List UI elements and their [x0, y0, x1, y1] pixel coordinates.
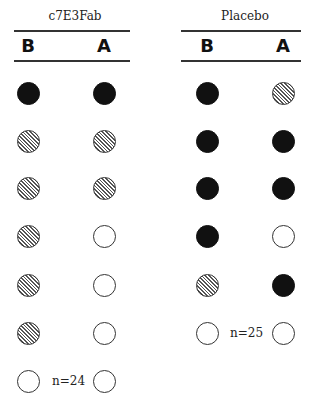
hatched-circle-icon — [17, 225, 40, 248]
hatched-circle-icon — [93, 177, 116, 200]
empty-circle-icon — [93, 370, 116, 393]
hatched-circle-icon — [93, 130, 116, 153]
column-header-a: A — [89, 35, 119, 56]
empty-circle-icon — [17, 370, 40, 393]
hatched-circle-icon — [17, 177, 40, 200]
filled-circle-icon — [272, 130, 295, 153]
filled-circle-icon — [196, 177, 219, 200]
hatched-circle-icon — [17, 274, 40, 297]
header-rule-top — [181, 30, 301, 32]
header-rule-bottom — [181, 60, 301, 62]
empty-circle-icon — [93, 322, 116, 345]
column-header-b: B — [192, 35, 222, 56]
hatched-circle-icon — [196, 274, 219, 297]
filled-circle-icon — [196, 225, 219, 248]
empty-circle-icon — [93, 274, 116, 297]
hatched-circle-icon — [17, 130, 40, 153]
hatched-circle-icon — [272, 82, 295, 105]
filled-circle-icon — [272, 274, 295, 297]
sample-size-label: n=24 — [52, 374, 85, 388]
hatched-circle-icon — [17, 322, 40, 345]
sample-size-label: n=25 — [230, 326, 263, 340]
group-title: Placebo — [190, 9, 300, 23]
filled-circle-icon — [17, 82, 40, 105]
empty-circle-icon — [196, 322, 219, 345]
filled-circle-icon — [196, 82, 219, 105]
column-header-a: A — [268, 35, 298, 56]
column-header-b: B — [13, 35, 43, 56]
empty-circle-icon — [93, 225, 116, 248]
header-rule-bottom — [14, 60, 130, 62]
header-rule-top — [14, 30, 130, 32]
filled-circle-icon — [272, 177, 295, 200]
filled-circle-icon — [93, 82, 116, 105]
group-title: c7E3Fab — [20, 9, 130, 23]
empty-circle-icon — [272, 225, 295, 248]
empty-circle-icon — [272, 322, 295, 345]
filled-circle-icon — [196, 130, 219, 153]
